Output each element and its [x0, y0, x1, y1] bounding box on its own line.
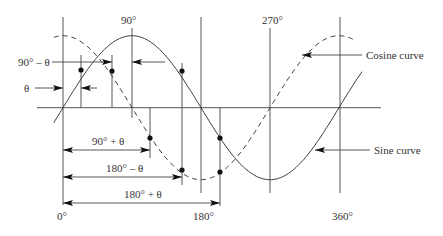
label-180deg: 180° — [193, 210, 214, 222]
label-sine-curve: Sine curve — [374, 144, 421, 156]
label-theta: θ — [24, 82, 29, 94]
label-0deg: 0° — [57, 210, 67, 222]
dot-cos-180-plus-theta — [217, 169, 222, 174]
dot-sine-180-minus-theta — [179, 68, 184, 73]
dot-cos-180-minus-theta — [179, 167, 184, 172]
label-90-plus-theta: 90° + θ — [92, 135, 124, 147]
label-90deg: 90° — [121, 14, 136, 26]
dot-cos-90-plus-theta — [147, 135, 152, 140]
label-180-plus-theta: 180° + θ — [124, 188, 162, 200]
dot-cos-90-minus-theta — [109, 68, 114, 73]
label-cosine-curve: Cosine curve — [366, 49, 424, 61]
label-90-minus-theta: 90° – θ — [18, 56, 50, 68]
dot-sine-theta — [78, 67, 83, 72]
sine-cosine-diagram: 90° 270° 0° 180° 360° 90° – θ θ 90° + θ … — [0, 0, 443, 236]
label-360deg: 360° — [332, 210, 353, 222]
label-270deg: 270° — [262, 14, 283, 26]
label-180-minus-theta: 180° – θ — [106, 162, 143, 174]
dot-sine-180-plus-theta — [217, 135, 222, 140]
